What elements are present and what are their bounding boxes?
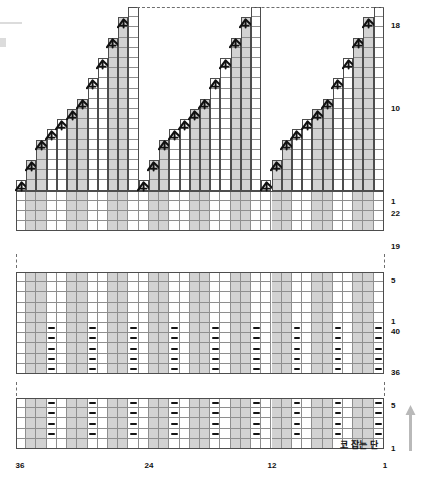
purl-dash-icon: [48, 423, 55, 425]
purl-dash-icon: [294, 433, 301, 435]
chart-cell: [149, 408, 159, 418]
chart-cell: [180, 398, 190, 408]
chart-cell: [241, 418, 251, 428]
row-label-bot-1: 1: [391, 445, 395, 453]
purl-dash-icon: [212, 433, 219, 435]
chart-cell: [16, 398, 26, 408]
panel-divider-right-lower: [384, 382, 385, 396]
purl-dash-icon: [89, 412, 96, 414]
column-label-1: 1: [378, 462, 392, 470]
chart-cell: [149, 439, 159, 449]
chart-cell: [272, 408, 282, 418]
chart-cell: [57, 429, 67, 439]
chart-cell: [26, 418, 36, 428]
purl-dash-icon: [89, 423, 96, 425]
chart-cell: [88, 439, 98, 449]
repeat-guide-top: [137, 7, 384, 8]
chart-cell: [180, 429, 190, 439]
chart-cell: [323, 408, 333, 418]
chart-cell: [282, 439, 292, 449]
purl-dash-icon: [89, 402, 96, 404]
purl-dash-icon: [335, 423, 342, 425]
purl-dash-icon: [48, 412, 55, 414]
purl-dash-icon: [48, 433, 55, 435]
row-label-1: 1: [391, 198, 395, 206]
chart-cell: [98, 398, 108, 408]
purl-dash-icon: [375, 402, 382, 404]
purl-dash-icon: [171, 412, 178, 414]
chart-cell: [302, 439, 312, 449]
chart-cell: [16, 429, 26, 439]
chart-cell: [36, 398, 46, 408]
chart-cell: [241, 439, 251, 449]
chart-cell: [241, 429, 251, 439]
row-label-mid-5: 5: [391, 277, 395, 285]
chart-cell: [128, 439, 138, 449]
purl-dash-icon: [375, 423, 382, 425]
chart-cell: [343, 418, 353, 428]
column-label-12: 12: [265, 462, 279, 470]
chart-cell: [282, 408, 292, 418]
purl-dash-icon: [375, 433, 382, 435]
chart-cell: [292, 439, 302, 449]
chart-cell: [98, 418, 108, 428]
chart-cell: [312, 429, 322, 439]
purl-dash-icon: [253, 412, 260, 414]
chart-cell: [200, 398, 210, 408]
purl-dash-icon: [171, 402, 178, 404]
chart-cell: [272, 398, 282, 408]
chart-cell: [323, 439, 333, 449]
chart-cell: [149, 418, 159, 428]
column-label-24: 24: [142, 462, 156, 470]
chart-cell: [282, 429, 292, 439]
chart-cell: [190, 439, 200, 449]
chart-cell: [343, 429, 353, 439]
purl-dash-icon: [89, 433, 96, 435]
chart-cell: [26, 439, 36, 449]
chart-cell: [323, 418, 333, 428]
chart-cell: [108, 439, 118, 449]
chart-cell: [77, 429, 87, 439]
chart-cell: [159, 429, 169, 439]
chart-cell: [169, 439, 179, 449]
chart-cell: [312, 439, 322, 449]
chart-cell: [77, 439, 87, 449]
chart-cell: [353, 418, 363, 428]
chart-cell: [200, 429, 210, 439]
row-label-mid-1: 1: [391, 318, 395, 326]
purl-dash-icon: [335, 402, 342, 404]
chart-cell: [108, 418, 118, 428]
purl-dash-icon: [253, 402, 260, 404]
chart-cell: [77, 398, 87, 408]
chart-cell: [272, 439, 282, 449]
chart-cell: [108, 429, 118, 439]
panel-divider-left-upper: [16, 254, 17, 268]
row-label-mid-36: 36: [391, 369, 400, 377]
chart-cell: [190, 418, 200, 428]
chart-cell: [16, 418, 26, 428]
chart-cell: [200, 408, 210, 418]
row-label-bot-5: 5: [391, 402, 395, 410]
chart-cell: [26, 408, 36, 418]
chart-cell: [57, 398, 67, 408]
chart-cell: [36, 408, 46, 418]
chart-cell: [139, 408, 149, 418]
chart-cell: [149, 398, 159, 408]
row-label-mid-40: 40: [391, 328, 400, 336]
chart-cell: [57, 418, 67, 428]
chart-cell: [200, 418, 210, 428]
purl-dash-icon: [212, 412, 219, 414]
column-label-36: 36: [13, 462, 27, 470]
chart-cell: [139, 418, 149, 428]
chart-cell: [47, 439, 57, 449]
chart-cell: [261, 418, 271, 428]
chart-cell: [26, 398, 36, 408]
chart-cell: [180, 418, 190, 428]
chart-cell: [363, 398, 373, 408]
chart-cell: [118, 429, 128, 439]
chart-cell: [312, 398, 322, 408]
chart-cell: [57, 408, 67, 418]
chart-cell: [241, 398, 251, 408]
chart-cell: [159, 418, 169, 428]
chart-cell: [180, 408, 190, 418]
